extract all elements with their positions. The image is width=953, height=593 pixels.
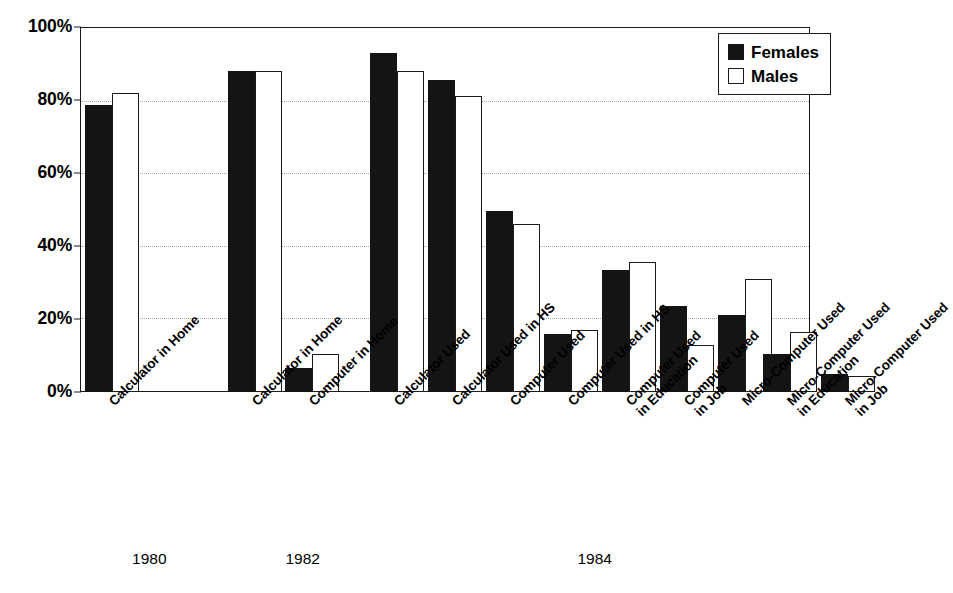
y-tick-label: 100% [0,18,72,36]
legend-swatch-males-icon [728,68,744,84]
bar-females [228,71,255,392]
legend-label-females: Females [751,44,819,61]
legend-entry-males: Males [728,64,830,88]
legend-swatch-females-icon [728,44,744,60]
x-year-label: 1982 [285,551,319,567]
bar-females [85,105,112,392]
bar-males [397,71,424,392]
x-year-label: 1984 [577,551,611,567]
legend-label-males: Males [751,68,798,85]
y-tick-label: 80% [0,91,72,109]
bar-males [112,93,139,392]
bar-males [255,71,282,392]
x-year-label: 1980 [132,551,166,567]
chart-legend: Females Males [718,33,831,95]
y-tick-label: 60% [0,164,72,182]
y-tick-label: 20% [0,310,72,328]
y-tick-label: 0% [0,383,72,401]
y-tick-label: 40% [0,237,72,255]
legend-entry-females: Females [728,40,830,64]
bar-males [513,224,540,392]
